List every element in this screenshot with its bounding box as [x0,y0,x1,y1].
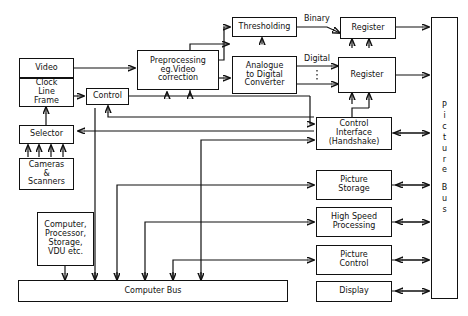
picture-bus-letter-b: B [442,183,448,194]
cameras-scanners-box[interactable]: Cameras & Scanners [19,158,74,190]
binary-signal-label: Binary [303,14,331,23]
computer-bus-box[interactable]: Computer Bus [18,280,288,302]
picture-bus-letter-s: s [442,205,446,216]
converter-label: Converter [245,79,285,88]
thresholding-box[interactable]: Thresholding [232,17,297,37]
vdu-label: VDU etc. [48,248,83,257]
register-digital-box[interactable]: Register [338,57,396,93]
picture-storage-box[interactable]: Picture Storage [316,170,392,200]
picture-bus-letter-p: P [442,101,447,112]
computer-bus-label: Computer Bus [124,287,181,296]
video-box[interactable]: Video [19,58,74,78]
register-binary-box[interactable]: Register [340,17,396,39]
control-box[interactable]: Control [86,88,129,105]
control-label: Control [93,92,122,101]
display-box[interactable]: Display [316,281,392,302]
picture-bus-letter-t: t [443,133,446,144]
preprocessing-box[interactable]: Preprocessing eg.Video correction [137,50,219,90]
high-speed-line2: Processing [333,222,376,231]
picture-control-line2: Control [340,260,369,269]
picture-control-box[interactable]: Picture Control [316,245,392,275]
block-diagram-canvas: Video Clock Line Frame Selector Cameras … [0,0,468,316]
picture-bus-letter-c: c [442,122,446,133]
correction-label: correction [158,74,198,83]
control-interface-box[interactable]: Control Interface (Handshake) [316,117,392,150]
clock-line-frame-box[interactable]: Clock Line Frame [19,78,74,107]
digital-signal-label: Digital [303,54,331,63]
picture-bus-letter-u2: u [442,194,447,205]
picture-storage-line2: Storage [338,185,369,194]
selector-box[interactable]: Selector [19,125,74,144]
register-binary-label: Register [352,24,385,33]
adc-box[interactable]: Analogue to Digital Converter [232,56,297,94]
picture-bus-letter-e: e [442,165,447,176]
scanners-label: Scanners [28,178,65,187]
selector-label: Selector [30,130,63,139]
frame-label: Frame [34,97,59,106]
picture-bus-letter-u: u [442,144,447,155]
picture-bus-letter-i: i [443,111,445,122]
computer-processor-box[interactable]: Computer, Processor, Storage, VDU etc. [37,212,94,266]
high-speed-processing-box[interactable]: High Speed Processing [316,207,392,237]
thresholding-label: Thresholding [239,23,291,32]
video-label: Video [35,64,57,73]
handshake-label: (Handshake) [329,138,380,147]
picture-bus-letter-r: r [443,155,446,166]
register-digital-label: Register [351,71,384,80]
display-label: Display [339,287,369,296]
picture-bus-box[interactable]: P i c t u r e B u s [431,17,458,299]
